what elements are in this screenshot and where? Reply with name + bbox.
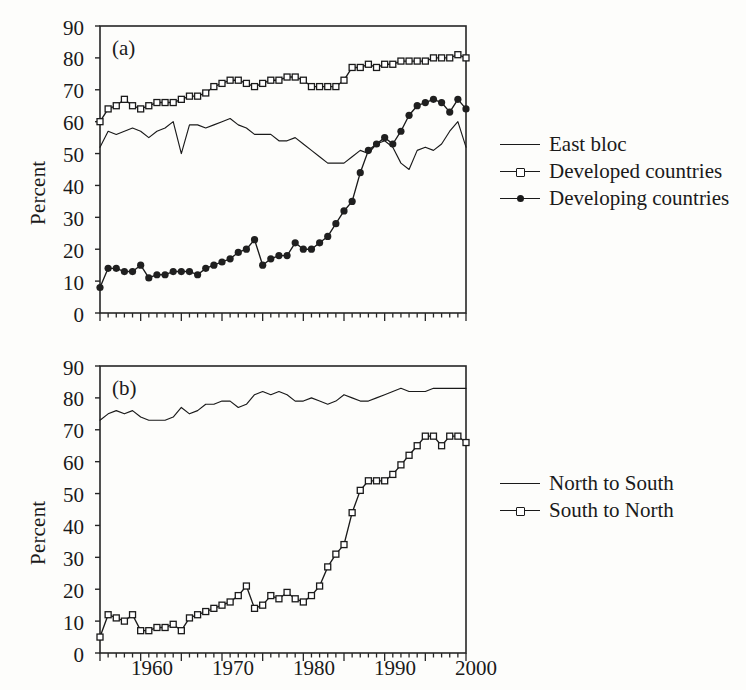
xtick-1990: 1990 — [360, 656, 430, 681]
legend-item-developing-countries[interactable]: Developing countries — [500, 185, 729, 212]
xtick-1980: 1980 — [279, 656, 349, 681]
open-square-swatch — [500, 504, 540, 518]
legend-item-south-to-north[interactable]: South to North — [500, 497, 674, 524]
line-swatch — [500, 138, 540, 152]
panel-a: Percent 90 80 70 60 50 40 30 20 10 0 (a) — [0, 0, 500, 340]
legend-item-east-bloc[interactable]: East bloc — [500, 131, 729, 158]
legend-label: North to South — [549, 471, 674, 496]
open-square-swatch — [500, 165, 540, 179]
panel-b-plot — [0, 340, 500, 690]
figure-container: Percent 90 80 70 60 50 40 30 20 10 0 (a)… — [0, 0, 746, 690]
filled-circle-swatch — [500, 192, 540, 206]
legend-panel-b: North to South South to North — [500, 470, 674, 524]
legend-label: Developing countries — [549, 186, 729, 211]
panel-b: Percent 90 80 70 60 50 40 30 20 10 0 (b)… — [0, 340, 500, 690]
legend-panel-a: East bloc Developed countries Developing… — [500, 131, 729, 212]
legend-item-developed-countries[interactable]: Developed countries — [500, 158, 729, 185]
xtick-1970: 1970 — [198, 656, 268, 681]
legend-label: South to North — [549, 498, 674, 523]
line-swatch — [500, 477, 540, 491]
legend-label: East bloc — [549, 132, 627, 157]
xtick-1960: 1960 — [117, 656, 187, 681]
legend-item-north-to-south[interactable]: North to South — [500, 470, 674, 497]
legend-label: Developed countries — [549, 159, 722, 184]
xtick-2000: 2000 — [441, 656, 511, 681]
panel-a-plot — [0, 0, 500, 340]
